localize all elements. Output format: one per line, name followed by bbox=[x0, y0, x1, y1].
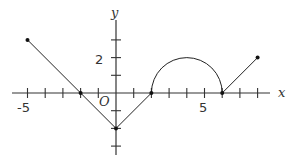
graph-points bbox=[26, 38, 260, 130]
x-axis-label: x bbox=[278, 85, 286, 100]
origin-label: O bbox=[99, 94, 110, 109]
function-graph: x y O -5 5 2 bbox=[0, 0, 299, 163]
y-axis-label: y bbox=[110, 5, 119, 20]
graph-curve bbox=[28, 40, 258, 128]
y-tick-label-2: 2 bbox=[95, 52, 103, 67]
x-tick-label-neg5: -5 bbox=[17, 100, 30, 115]
x-tick-label-5: 5 bbox=[199, 100, 207, 115]
